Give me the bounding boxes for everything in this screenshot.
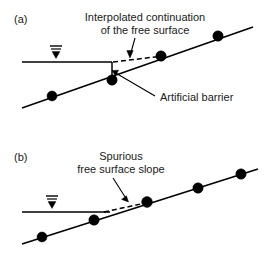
artificial-barrier-label: Artificial barrier bbox=[160, 91, 234, 103]
water-table-symbol-b bbox=[46, 196, 58, 209]
panel-a: (a) Interpolated continuation of the fre… bbox=[14, 11, 253, 108]
node-dot bbox=[47, 91, 57, 101]
interpolated-continuation-label-line2: of the free surface bbox=[101, 24, 190, 36]
panel-a-label: (a) bbox=[14, 13, 27, 25]
node-dot bbox=[89, 215, 99, 225]
technical-diagram: (a) Interpolated continuation of the fre… bbox=[0, 0, 271, 255]
node-dot bbox=[142, 197, 153, 208]
panel-b: (b) Spurious free surface slope bbox=[14, 150, 258, 244]
node-dot bbox=[213, 31, 223, 41]
interpolated-continuation-leader bbox=[127, 38, 135, 58]
spurious-slope-label-line1: Spurious bbox=[99, 150, 143, 162]
spurious-slope-leader bbox=[113, 178, 129, 202]
panel-b-label: (b) bbox=[14, 151, 27, 163]
node-dot bbox=[37, 232, 47, 242]
water-table-symbol-a bbox=[50, 46, 62, 59]
node-dot bbox=[193, 183, 203, 193]
slope-line-b bbox=[22, 169, 258, 244]
figure-root: (a) Interpolated continuation of the fre… bbox=[0, 0, 271, 255]
node-dot bbox=[107, 75, 117, 85]
spurious-slope-label-line2: free surface slope bbox=[77, 163, 164, 175]
node-dot bbox=[236, 169, 246, 179]
artificial-barrier-leader bbox=[112, 70, 155, 96]
interpolated-continuation-label-line1: Interpolated continuation bbox=[85, 11, 205, 23]
node-dot bbox=[156, 51, 166, 61]
